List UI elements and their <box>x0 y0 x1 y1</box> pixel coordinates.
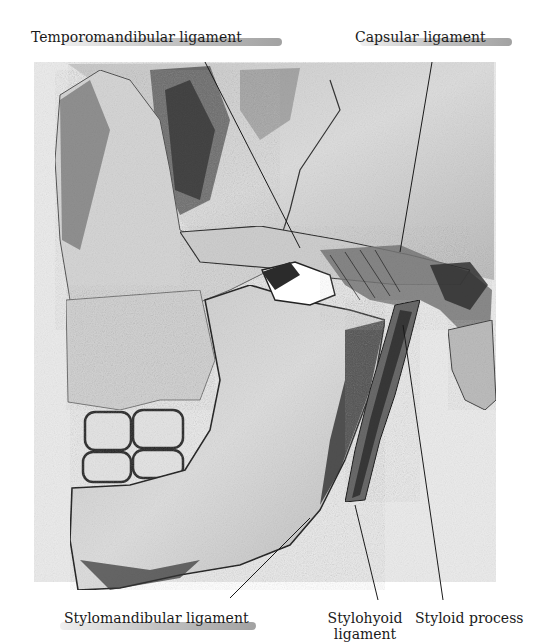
maxilla <box>66 290 215 410</box>
label-temporomandibular-ligament: Temporomandibular ligament <box>31 29 242 45</box>
label-capsular-ligament: Capsular ligament <box>355 29 486 45</box>
label-stylohyoid-ligament: Stylohyoid ligament <box>316 610 414 642</box>
skull-illustration <box>0 0 546 644</box>
label-stylomandibular-ligament: Stylomandibular ligament <box>64 610 249 626</box>
label-stylohyoid-line1: Stylohyoid <box>316 610 414 626</box>
label-stylohyoid-line2: ligament <box>316 626 414 642</box>
label-styloid-process: Styloid process <box>415 610 524 626</box>
